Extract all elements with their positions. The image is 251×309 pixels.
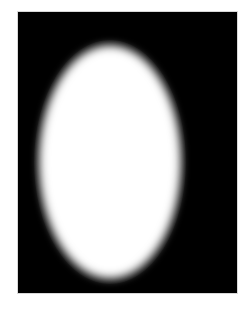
image-canvas [0,0,251,309]
white-ellipse-shape [40,46,180,278]
black-image-frame [18,12,237,293]
bottom-caption-text [32,296,112,304]
top-caption-text [112,0,242,8]
